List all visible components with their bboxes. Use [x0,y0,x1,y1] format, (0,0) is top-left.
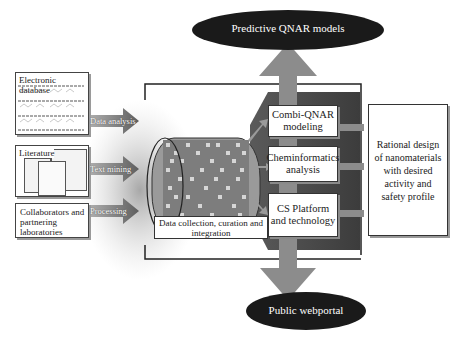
arrow-label-data-analysis: Data analysis [90,116,136,126]
source-label: Collaborators and partnering laboratorie… [20,207,86,237]
source-collaborators: Collaborators and partnering laboratorie… [15,203,89,238]
method-cheminformatics: Cheminformatics analysis [268,146,338,182]
result-label: Rational design of nanomaterials with de… [373,138,443,203]
source-electronic-database: Electronic database [15,72,89,135]
method-label: CS Platform and technology [269,203,337,227]
source-label: Electronic database [19,75,88,95]
method-arrow-1 [338,124,364,131]
source-literature: Literature [15,145,89,197]
method-arrow-2 [338,163,364,170]
method-arrow-3 [338,210,364,217]
result-box: Rational design of nanomaterials with de… [368,104,448,236]
top-output-label: Predictive QNAR models [196,22,380,34]
bottom-output-label: Public webportal [248,304,364,316]
arrow-label-processing: Processing [90,206,127,216]
method-cs-platform: CS Platform and technology [268,193,338,237]
method-label: Cheminformatics analysis [267,152,340,176]
method-combi-qnar: Combi-QNAR modeling [268,105,338,137]
arrow-label-text-mining: Text mining [90,164,131,174]
method-label: Combi-QNAR modeling [269,109,337,133]
hub-label: Data collection, curation and integratio… [154,216,268,239]
source-label: Literature [19,148,54,158]
document-icon [38,161,66,196]
